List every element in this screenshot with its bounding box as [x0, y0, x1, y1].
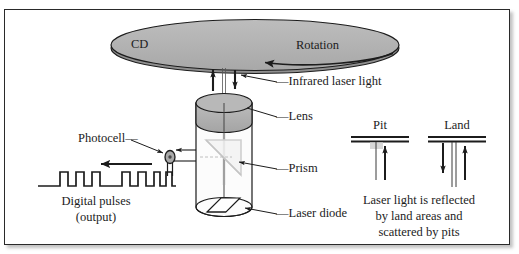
laser-diode-label: —Laser diode — [276, 206, 347, 220]
caption-line1: Laser light is reflected — [345, 193, 493, 207]
pit-diagram — [351, 137, 409, 180]
leader-dash: — — [276, 206, 289, 220]
digital-pulses-label-line1: Digital pulses — [38, 194, 154, 208]
digital-pulses-label-line2: (output) — [38, 210, 154, 224]
leader-dash: — — [276, 109, 289, 123]
pickup-assembly — [196, 94, 252, 217]
lens-label: —Lens — [276, 109, 313, 123]
leader-dash: — — [276, 161, 289, 175]
photocell-label: Photocell— — [78, 131, 138, 145]
infrared-laser-light-label: —Infrared laser light — [276, 74, 382, 88]
prism-label: —Prism — [276, 161, 318, 175]
figure-root: CD Rotation —Infrared laser light —Lens … — [0, 0, 519, 254]
land-diagram — [428, 137, 486, 187]
pit-label: Pit — [352, 118, 408, 132]
caption-line3: scattered by pits — [345, 225, 493, 239]
caption-line2: by land areas and — [345, 209, 493, 223]
land-label: Land — [429, 118, 485, 132]
digital-pulse-waveform — [38, 172, 176, 186]
cd-label: CD — [131, 37, 148, 51]
leader-dash: — — [125, 131, 138, 145]
leader-dash: — — [276, 74, 289, 88]
cd-disc — [111, 20, 399, 74]
rotation-label: Rotation — [296, 38, 339, 52]
